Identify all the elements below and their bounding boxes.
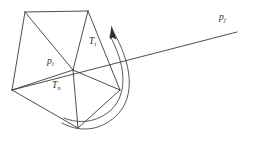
label-t-n: Tn [52,81,61,91]
label-t-n-base: T [52,80,57,90]
figure-container: pi pj Ti Tn [0,0,258,143]
spoke-to-bottom [73,70,78,128]
polygon-edge-bottom-left [12,90,78,128]
sweep-arrow-head [110,26,117,40]
spoke-to-top [73,11,88,70]
label-t-i-base: T [89,36,94,46]
label-p-j: pj [219,13,226,23]
polygon-edge-bottom-right [78,90,120,128]
label-t-n-sub: n [58,84,61,91]
ray-to-pj [12,32,237,90]
label-p-i: pi [47,57,54,67]
label-p-j-sub: j [224,16,226,23]
spoke-to-left [12,70,73,90]
label-t-i: Ti [89,37,96,47]
triangle-fan-spokes [12,11,120,128]
polygon-edge-left [12,12,25,90]
label-p-i-sub: i [52,60,54,67]
polygon-outline [12,11,120,128]
polygon-edge-top-left [25,11,88,12]
